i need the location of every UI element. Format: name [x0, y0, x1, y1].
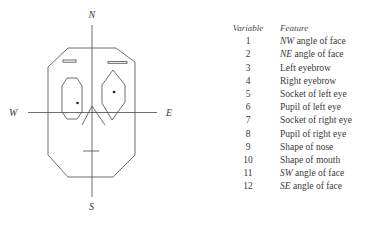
south-label: S	[89, 201, 94, 212]
right-pupil	[113, 91, 116, 94]
table-row: 10 Shape of mouth	[232, 154, 372, 167]
table-row: 9 Shape of nose	[232, 141, 372, 154]
nose	[82, 106, 105, 125]
feature-header: Feature	[264, 22, 308, 35]
table-row: 2 NE angle of face	[232, 48, 372, 61]
east-label: E	[165, 107, 172, 118]
left-pupil	[76, 102, 79, 105]
north-label: N	[88, 9, 97, 20]
table-row: 7 Socket of right eye	[232, 114, 372, 127]
table-header: Variable Feature	[232, 22, 372, 35]
table-row: 6 Pupil of left eye	[232, 101, 372, 114]
table-row: 5 Socket of left eye	[232, 88, 372, 101]
chernoff-face-diagram: N S W E	[0, 0, 190, 229]
west-label: W	[9, 107, 19, 118]
table-row: 11 SW angle of face	[232, 167, 372, 180]
variable-feature-table: Variable Feature 1 NW angle of face 2 NE…	[232, 22, 372, 193]
table-row: 3 Left eyebrow	[232, 62, 372, 75]
left-eyebrow	[63, 60, 76, 62]
table-row: 8 Pupil of right eye	[232, 128, 372, 141]
table-row: 12 SE angle of face	[232, 180, 372, 193]
variable-header: Variable	[232, 22, 264, 35]
table-row: 4 Right eyebrow	[232, 75, 372, 88]
right-eyebrow	[108, 62, 127, 64]
table-row: 1 NW angle of face	[232, 35, 372, 48]
